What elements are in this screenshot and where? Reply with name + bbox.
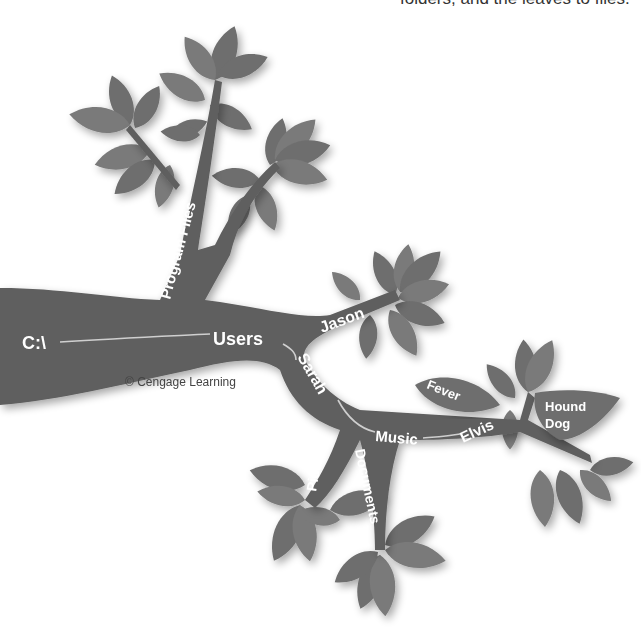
leaves-pictures-documents <box>247 459 448 618</box>
copyright-credit: © Cengage Learning <box>125 375 236 389</box>
label-hound-dog-file-line1: Hound <box>545 399 586 414</box>
label-hound-dog-file-line2: Dog <box>545 416 570 431</box>
label-jason-folder: Jason <box>317 304 366 336</box>
folder-tree-illustration: C:\ Users Program Files Jason Sarah Musi… <box>0 0 641 639</box>
label-root-drive: C:\ <box>22 333 46 353</box>
label-users-folder: Users <box>213 329 263 349</box>
